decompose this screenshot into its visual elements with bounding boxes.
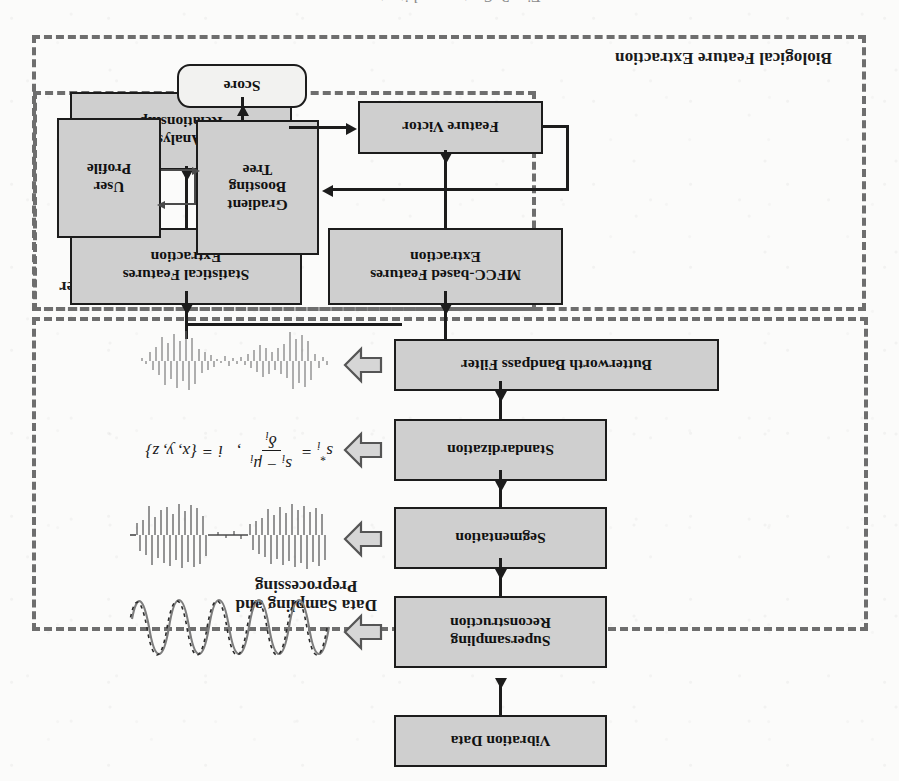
formula-denominator: δi (262, 429, 281, 452)
block-arrow-to-segmentation-wave (343, 520, 383, 558)
box-supersampling-reconstruction[interactable]: Supersampling Reconstruction (394, 596, 607, 668)
connector-feature-vector-to-left (541, 126, 569, 129)
formula-index-set: i = {x, y, z} (145, 441, 223, 461)
arrowhead-gbt-to-user-profile (157, 201, 165, 209)
box-vibration-data[interactable]: Vibration Data (394, 715, 607, 767)
connector-gbt-to-user-profile (161, 203, 196, 205)
rotated-figure-canvas: Data Sampling and Preprocessing Biologic… (0, 0, 899, 781)
arrowhead-mfcc-to-feature-vector (440, 153, 452, 164)
thumbnail-sine-wave-reconstruction (128, 589, 333, 665)
arrowhead-vibration-to-supersampling (495, 678, 507, 689)
connector-user-profile-to-gbt (161, 169, 196, 171)
block-arrow-to-filtered-wave (343, 346, 383, 384)
box-butterworth-bandpass-filter[interactable]: Butterworth Bandpass Filter (394, 339, 719, 391)
connector-gbt-to-user-profile-riser (194, 171, 196, 205)
arrowhead-standardization-to-butterworth (495, 391, 507, 402)
arrowhead-gbt-to-score (237, 105, 249, 116)
standardization-formula: s*i = si − μi δi , i = {x, y, z} (145, 429, 333, 473)
block-arrow-to-formula (343, 431, 383, 469)
arrowhead-butterworth-to-mfcc (440, 304, 452, 315)
connector-butterworth-to-mfcc (445, 291, 448, 339)
connector-pca-to-feature-vector (289, 127, 351, 130)
group-bio-feature-label: Biological Feature Extraction (615, 49, 832, 68)
formula-numerator: si − μi (246, 451, 296, 473)
arrowhead-supersampling-to-segmentation (495, 569, 507, 580)
arrowhead-to-gradient-boosting-tree (322, 185, 333, 197)
figure-page: Fig. 3. System architecture Data Samplin… (0, 0, 899, 781)
thumbnail-bandpass-filtered-waveform (138, 324, 333, 398)
formula-lhs: s*i = si − μi δi , (237, 429, 333, 473)
block-arrow-to-supersampling-wave (343, 613, 383, 651)
arrowhead-segmentation-to-standardization (495, 481, 507, 492)
arrowhead-user-profile-to-gbt (192, 167, 200, 175)
box-gradient-boosting-tree[interactable]: Gradient Boosting Tree (196, 120, 319, 255)
connector-to-gradient-boosting-tree (329, 189, 569, 192)
arrowhead-pca-to-feature-vector (346, 123, 357, 135)
box-user-profile[interactable]: User Profile (57, 118, 161, 238)
thumbnail-segmented-burst-waveform (128, 494, 333, 576)
box-feature-vector[interactable]: Feature Victor (358, 101, 543, 154)
connector-feature-vector-riser (567, 126, 570, 191)
arrowhead-butterworth-to-statistical (181, 304, 193, 315)
